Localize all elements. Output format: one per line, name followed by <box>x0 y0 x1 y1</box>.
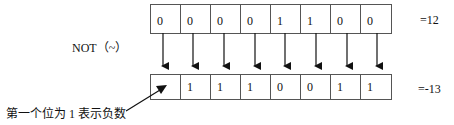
annotation-arrow-icon <box>126 85 167 111</box>
down-arrow-icons <box>163 33 377 66</box>
arrows-layer <box>0 0 454 125</box>
